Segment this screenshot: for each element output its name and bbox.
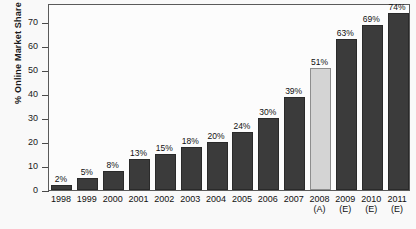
y-tick-label: 0 [16, 186, 38, 195]
x-axis-label: 2011(E) [381, 194, 413, 215]
bar [388, 13, 409, 190]
x-axis-label-year: 1999 [77, 194, 97, 204]
bar-value-label: 20% [200, 132, 232, 141]
bar [207, 142, 228, 190]
bar-value-label: 69% [355, 15, 387, 24]
x-axis-label-year: 2009 [335, 194, 355, 204]
x-axis-label-year: 2006 [258, 194, 278, 204]
bar-value-label: 8% [97, 161, 129, 170]
bar [310, 68, 331, 190]
bar-value-label: 24% [226, 122, 258, 131]
x-axis-label-year: 2002 [154, 194, 174, 204]
x-axis-label-year: 2011 [387, 194, 406, 204]
y-tick-label: 60 [16, 42, 38, 51]
x-axis-label-year: 2004 [206, 194, 226, 204]
x-axis-label-year: 1998 [51, 194, 71, 204]
bar [155, 154, 176, 190]
x-axis-label-qualifier: (E) [381, 204, 413, 214]
y-tick-label: 30 [16, 114, 38, 123]
x-axis-label-year: 2000 [103, 194, 123, 204]
x-axis-label-year: 2005 [232, 194, 252, 204]
bar-value-label: 63% [329, 29, 361, 38]
y-tick-label: 70 [16, 18, 38, 27]
y-tick-label: 10 [16, 162, 38, 171]
x-axis-label-year: 2008 [309, 194, 329, 204]
bar [77, 178, 98, 190]
y-tick-label: 40 [16, 90, 38, 99]
bar [103, 171, 124, 190]
x-axis-label-year: 2001 [128, 194, 148, 204]
bar [362, 25, 383, 190]
bar [232, 132, 253, 190]
bar [336, 39, 357, 190]
x-axis-label-year: 2010 [361, 194, 381, 204]
y-tick-label: 20 [16, 138, 38, 147]
bar [284, 97, 305, 191]
y-tick-label: 50 [16, 66, 38, 75]
bar [181, 147, 202, 190]
bar [258, 118, 279, 190]
bar-value-label: 74% [381, 3, 413, 12]
x-axis-label-year: 2003 [180, 194, 200, 204]
bar-value-label: 30% [252, 108, 284, 117]
bar-chart: % Online Market Share 010203040506070 2%… [0, 0, 416, 229]
bar [51, 185, 72, 190]
bar-value-label: 51% [304, 58, 336, 67]
bar [129, 159, 150, 190]
x-axis-label-year: 2007 [284, 194, 304, 204]
bar-value-label: 39% [278, 87, 310, 96]
